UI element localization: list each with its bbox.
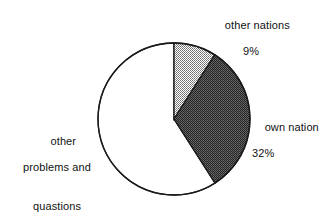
- pie-label-own-nation-percent: 32%: [252, 147, 332, 160]
- pie-label-other-nations: other nations 9%: [186, 6, 316, 84]
- pie-label-other-problems-line2: problems and: [4, 161, 110, 174]
- pie-label-own-nation: own nation 32%: [252, 108, 332, 186]
- pie-label-other-nations-name: other nations: [225, 19, 290, 31]
- pie-label-own-nation-name: own nation: [265, 121, 319, 133]
- pie-label-other-problems: other problems and quastions 59%: [4, 122, 110, 213]
- pie-label-other-nations-percent: 9%: [186, 45, 316, 58]
- pie-label-other-problems-line1: other: [51, 135, 77, 147]
- pie-chart-figure: other nations 9% own nation 32% other pr…: [0, 0, 333, 213]
- pie-label-other-problems-line3: quastions: [4, 200, 110, 213]
